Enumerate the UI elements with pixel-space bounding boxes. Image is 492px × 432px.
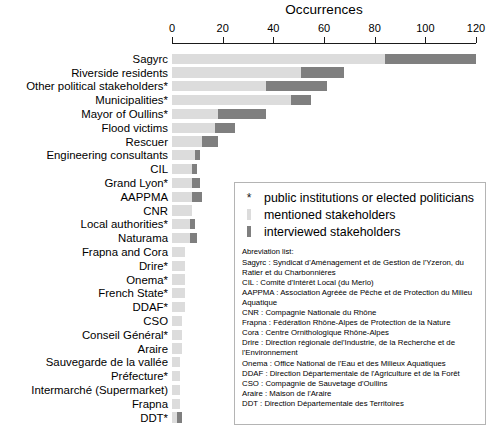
abbreviation-entry: DDT : Direction Départementale des Terri… bbox=[242, 399, 478, 409]
bar-row-label: Naturama bbox=[118, 232, 168, 244]
bar-row-label: CNR bbox=[143, 205, 168, 217]
bar-segment-mentioned bbox=[172, 150, 195, 160]
x-axis: 020406080100120 bbox=[0, 22, 492, 48]
bar-row-label: Onema* bbox=[126, 274, 168, 286]
abbreviation-list: Abreviation list: Sagyrc : Syndicat d'Am… bbox=[242, 247, 478, 409]
bar-segment-mentioned bbox=[172, 81, 266, 91]
bar-segment-interviewed bbox=[266, 81, 327, 91]
legend-and-abbreviation-box: *public institutions or elected politici… bbox=[234, 182, 486, 425]
bar-row-label: Frapna bbox=[132, 398, 168, 410]
bar-segment-interviewed bbox=[177, 412, 182, 422]
bar-row-label: CIL bbox=[150, 163, 168, 175]
bar-segment-mentioned bbox=[172, 385, 180, 395]
dark-bar-swatch bbox=[247, 226, 251, 237]
x-tick-mark bbox=[324, 37, 325, 43]
bar-segment-mentioned bbox=[172, 399, 180, 409]
legend-item: mentioned stakeholders bbox=[242, 206, 478, 223]
light-gray-bar-icon bbox=[242, 209, 256, 220]
bar-row: Flood victims bbox=[0, 121, 492, 135]
bar-segment-interviewed bbox=[192, 192, 202, 202]
bar-row-label: DDT* bbox=[140, 412, 168, 424]
bar-row: Municipalities* bbox=[0, 93, 492, 107]
x-tick-mark bbox=[425, 37, 426, 43]
bar-segment-interviewed bbox=[190, 219, 195, 229]
bar-segment-mentioned bbox=[172, 343, 182, 353]
dark-gray-bar-icon bbox=[242, 226, 256, 237]
bar-segment-mentioned bbox=[172, 178, 192, 188]
bar-row-label: Intermarché (Supermarket) bbox=[31, 384, 168, 396]
bar-segment-mentioned bbox=[172, 302, 185, 312]
bar-segment-interviewed bbox=[195, 150, 200, 160]
bar-row-label: French State* bbox=[98, 287, 168, 299]
abbreviation-lines: Sagyrc : Syndicat d'Aménagement et de Ge… bbox=[242, 258, 478, 409]
legend-item: *public institutions or elected politici… bbox=[242, 189, 478, 206]
bar-segment-mentioned bbox=[172, 192, 192, 202]
bar-track bbox=[172, 123, 476, 133]
x-tick-label: 100 bbox=[416, 22, 434, 34]
bar-segment-mentioned bbox=[172, 288, 185, 298]
bar-segment-mentioned bbox=[172, 357, 180, 367]
bar-segment-mentioned bbox=[172, 123, 215, 133]
bar-track bbox=[172, 95, 476, 105]
bar-row-label: Préfecture* bbox=[111, 370, 168, 382]
bar-segment-mentioned bbox=[172, 67, 301, 77]
x-axis-line bbox=[172, 43, 476, 44]
asterisk-icon: * bbox=[247, 194, 252, 202]
star-marker-icon: * bbox=[242, 194, 256, 202]
bar-segment-mentioned bbox=[172, 219, 190, 229]
bar-row-label: Conseil Général* bbox=[82, 329, 168, 341]
bar-segment-mentioned bbox=[172, 261, 185, 271]
bar-segment-mentioned bbox=[172, 54, 385, 64]
bar-row-label: Flood victims bbox=[102, 122, 168, 134]
bar-row-label: Riverside residents bbox=[71, 67, 168, 79]
legend-label: mentioned stakeholders bbox=[264, 208, 396, 222]
bar-segment-interviewed bbox=[192, 164, 197, 174]
bar-segment-interviewed bbox=[215, 123, 235, 133]
bar-segment-interviewed bbox=[301, 67, 344, 77]
abbreviation-entry: CNR : Compagnie Nationale du Rhône bbox=[242, 308, 478, 318]
abbreviation-entry: Cora : Centre Ornithologique Rhône-Alpes bbox=[242, 328, 478, 338]
abbreviation-list-title: Abreviation list: bbox=[242, 247, 478, 257]
bar-row-label: Local authorities* bbox=[81, 218, 168, 230]
bar-segment-mentioned bbox=[172, 95, 291, 105]
bar-segment-mentioned bbox=[172, 233, 190, 243]
bar-row-label: AAPPMA bbox=[121, 191, 168, 203]
bar-row-label: Mayor of Oullins* bbox=[81, 108, 168, 120]
abbreviation-entry: Frapna : Fédération Rhône-Alpes de Prote… bbox=[242, 318, 478, 328]
x-tick-label: 120 bbox=[467, 22, 485, 34]
bar-row: Other political stakeholders* bbox=[0, 80, 492, 94]
bar-row-label: Sagyrc bbox=[133, 53, 168, 65]
legend-label: public institutions or elected politicia… bbox=[264, 191, 474, 205]
bar-row-label: Other political stakeholders* bbox=[26, 80, 168, 92]
bar-segment-mentioned bbox=[172, 164, 192, 174]
bar-row-label: DDAF* bbox=[133, 301, 168, 313]
bar-track bbox=[172, 54, 476, 64]
bar-segment-interviewed bbox=[218, 109, 266, 119]
abbreviation-entry: DDAF : Direction Départementale de l'Agr… bbox=[242, 369, 478, 379]
bar-segment-mentioned bbox=[172, 109, 218, 119]
x-tick-mark bbox=[375, 37, 376, 43]
bar-segment-interviewed bbox=[385, 54, 476, 64]
bar-row: Rescuer bbox=[0, 135, 492, 149]
bar-track bbox=[172, 150, 476, 160]
bar-row-label: Municipalities* bbox=[95, 94, 168, 106]
x-tick-mark bbox=[273, 37, 274, 43]
bar-segment-mentioned bbox=[172, 247, 185, 257]
bar-row-label: Grand Lyon* bbox=[104, 177, 168, 189]
bar-row: Sagyrc bbox=[0, 52, 492, 66]
bar-row: Engineering consultants bbox=[0, 149, 492, 163]
bar-segment-interviewed bbox=[192, 178, 200, 188]
bar-row-label: Rescuer bbox=[126, 136, 168, 148]
bar-row-label: Drire* bbox=[139, 260, 168, 272]
bar-track bbox=[172, 81, 476, 91]
bar-row-label: Sauvegarde de la vallée bbox=[46, 356, 168, 368]
bar-row-label: Frapna and Cora bbox=[82, 246, 168, 258]
bar-row: Mayor of Oullins* bbox=[0, 107, 492, 121]
bar-row: Riverside residents bbox=[0, 66, 492, 80]
bar-track bbox=[172, 67, 476, 77]
bar-segment-mentioned bbox=[172, 205, 192, 215]
x-tick-label: 40 bbox=[267, 22, 279, 34]
abbreviation-entry: Araire : Maison de l'Araire bbox=[242, 389, 478, 399]
bar-segment-mentioned bbox=[172, 274, 185, 284]
bar-segment-mentioned bbox=[172, 371, 180, 381]
